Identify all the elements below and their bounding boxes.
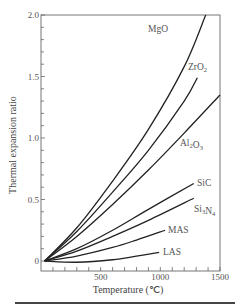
x-axis-title: Temperature (℃) bbox=[93, 284, 164, 296]
y-tick-label: 0 bbox=[35, 256, 40, 266]
bottom-rule bbox=[15, 302, 235, 304]
curve-label: ZrO2 bbox=[188, 62, 207, 73]
curve-label: LAS bbox=[163, 247, 181, 257]
y-tick-label: 1.5 bbox=[28, 72, 40, 82]
curve-label: SiC bbox=[197, 178, 211, 188]
y-tick-label: 0.5 bbox=[28, 195, 40, 205]
curve-label: Al2O3 bbox=[180, 138, 203, 151]
x-tick-label: 1000 bbox=[151, 272, 170, 282]
curve-label: Si3N4 bbox=[194, 204, 216, 217]
series-curves bbox=[45, 15, 220, 262]
x-tick-label: 500 bbox=[94, 272, 108, 282]
curve-las bbox=[45, 252, 160, 262]
x-tick-label: 1500 bbox=[211, 272, 230, 282]
curve-al2o3 bbox=[45, 95, 220, 261]
y-axis-title: Thermal expansion ratio bbox=[7, 96, 18, 194]
curve-label: MgO bbox=[148, 24, 168, 34]
thermal-expansion-chart: 00.51.01.52.050010001500 MgOZrO2Al2O3SiC… bbox=[0, 0, 242, 308]
curve-label: MAS bbox=[168, 225, 189, 235]
curve-labels: MgOZrO2Al2O3SiCSi3N4MASLAS bbox=[148, 24, 216, 257]
y-tick-label: 1.0 bbox=[28, 133, 40, 143]
y-tick-label: 2.0 bbox=[28, 10, 40, 20]
